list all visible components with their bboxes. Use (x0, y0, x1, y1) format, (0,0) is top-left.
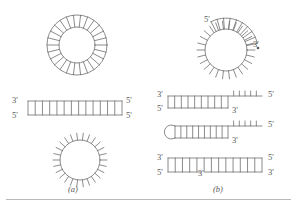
base-tick (98, 147, 104, 150)
base-tick (238, 67, 243, 74)
base-tick (54, 165, 61, 167)
base-pair-rung (93, 31, 104, 37)
backbone-circle (60, 140, 100, 180)
inner-strand-circle (59, 27, 95, 63)
base-tick (246, 55, 254, 57)
base-pair-rung (233, 20, 237, 30)
base-pair-rung (60, 60, 67, 70)
base-tick (60, 142, 65, 147)
base-pair-rung (60, 20, 67, 30)
base-pair-rung (83, 62, 87, 73)
base-tick (98, 169, 104, 172)
base-tick (198, 43, 206, 45)
strand-end-label: 5' (204, 15, 210, 24)
base-pair-rung (73, 15, 74, 27)
base-tick (200, 60, 207, 64)
strand-end-label: 3' (157, 90, 163, 99)
base-tick (223, 21, 224, 29)
base-tick (99, 154, 106, 156)
base-pair-rung (87, 60, 94, 70)
base-tick (56, 169, 62, 172)
circle-with-duplex-arc (197, 18, 259, 79)
base-tick (200, 37, 207, 41)
base-pair-rung (93, 53, 104, 59)
strand-end-label: 3' (253, 40, 259, 49)
figure-container: 3'5'5'5'(a)5'3'3'5'3'5'3'5'3'5'3'5'3'(b) (0, 0, 297, 206)
strand-end-label: 5' (157, 104, 163, 113)
base-pair-rung (90, 25, 99, 33)
base-pair-rung (83, 17, 87, 28)
single-stranded-circle (53, 133, 107, 187)
base-pair-rung (48, 38, 60, 41)
base-tick (223, 71, 224, 79)
strand-end-label: 3' (268, 168, 274, 177)
strand-end-label: 3' (232, 136, 238, 145)
panel-label-b: (b) (213, 185, 223, 194)
base-tick (229, 71, 230, 79)
strand-end-label: 5' (126, 96, 132, 105)
base-tick (82, 180, 83, 187)
base-tick (99, 165, 106, 167)
base-pair-rung (55, 25, 64, 33)
base-pair-rung (50, 31, 61, 37)
base-tick (54, 154, 61, 156)
base-tick (204, 31, 210, 36)
strand-end-label: 5' (268, 90, 274, 99)
base-tick (65, 138, 69, 144)
base-pair-rung (94, 38, 106, 41)
linear-duplex (28, 101, 122, 115)
nicked-duplex (168, 158, 262, 172)
base-pair-rung (50, 53, 61, 59)
base-pair-rung (66, 17, 70, 28)
backbone-circle (205, 29, 247, 71)
base-pair-rung (55, 57, 64, 65)
base-pair-rung (87, 20, 94, 30)
base-tick (242, 64, 248, 69)
base-tick (77, 133, 78, 140)
strand-end-label: 5' (126, 111, 132, 120)
base-tick (216, 70, 219, 77)
base-tick (70, 135, 72, 142)
base-tick (245, 37, 252, 41)
base-tick (56, 147, 62, 150)
base-pair-rung (48, 49, 60, 52)
strand-end-label: 3' (157, 153, 163, 162)
base-pair-rung (94, 49, 106, 52)
hairpin-partial-duplex (164, 121, 262, 139)
bottom-rule (6, 199, 291, 200)
base-tick (60, 173, 65, 178)
hairpin-loop (164, 125, 175, 139)
base-pair-rung (90, 57, 99, 65)
base-tick (91, 138, 95, 144)
base-tick (91, 176, 95, 182)
base-tick (82, 133, 83, 140)
circular-duplex (47, 15, 107, 75)
base-tick (87, 135, 89, 142)
base-pair-rung (66, 62, 70, 73)
base-tick (95, 173, 100, 178)
base-tick (204, 64, 210, 69)
panel-label-a: (a) (68, 185, 78, 194)
strand-end-label: 5' (12, 111, 18, 120)
base-tick (95, 142, 100, 147)
strand-end-label: 3' (232, 106, 238, 115)
base-pair-rung (73, 63, 74, 75)
base-tick (65, 176, 69, 182)
strand-end-label: 5' (268, 120, 274, 129)
base-tick (245, 60, 252, 64)
base-pair-rung (79, 15, 80, 27)
strand-end-label: 3' (12, 96, 18, 105)
base-pair-rung (79, 63, 80, 75)
base-tick (87, 179, 89, 186)
base-tick (210, 67, 215, 74)
strand-end-label: 5' (157, 168, 163, 177)
base-tick (198, 55, 206, 57)
partial-duplex-top (168, 91, 262, 108)
strand-end-label: 5' (268, 153, 274, 162)
figure-canvas (0, 0, 297, 206)
base-tick (233, 70, 236, 77)
strand-end-label: 3' (198, 169, 204, 178)
